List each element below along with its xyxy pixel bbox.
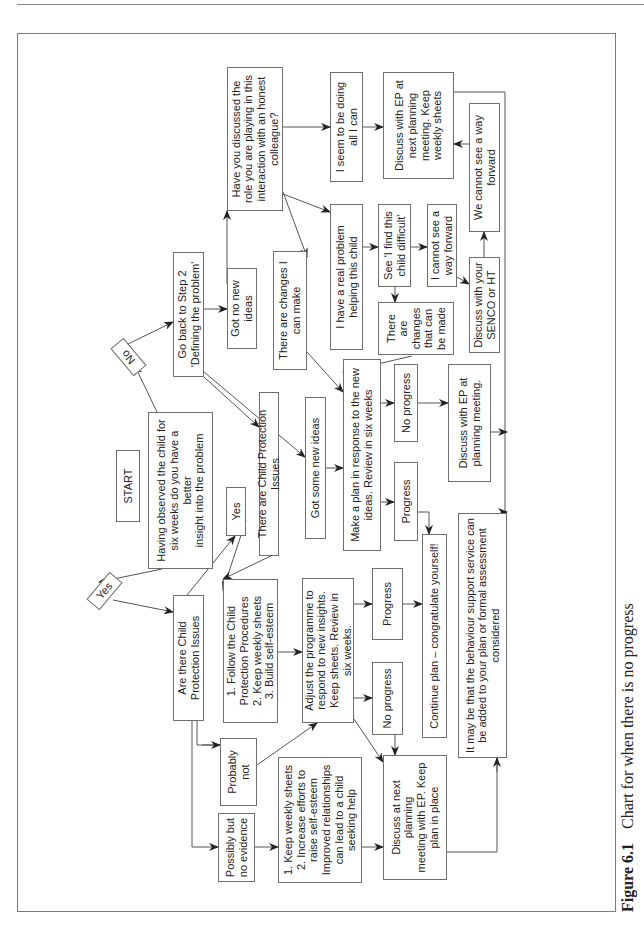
flowchart: START Having observed the child for six … [17,33,616,912]
make-a-plan: Make a plan in response to the new ideas… [343,359,381,551]
cannot-see-way-forward: I cannot see a way forward [427,204,457,287]
question-cp-issues: Are there Child Protection Issues [173,595,204,721]
follow-cp-procedures: 1. Follow the Child Protection Procedure… [223,579,278,723]
adjust-programme: Adjust the programme to respond to new i… [302,578,354,723]
possibly-no-evidence: Possibly but no evidence [218,813,255,882]
changes-that-can-be-made: There are changes that can be made [378,302,454,355]
continue-plan: Continue plan – congratulate yourself! [422,534,447,738]
question-better-insight: Having observed the child for six weeks … [148,412,213,569]
discuss-ep-planning-meeting: Discuss with EP at planning meeting. [448,364,491,482]
start-node: START [116,450,140,522]
go-back-step-2: Go back to Step 2 'Defining the problem' [173,252,204,377]
got-no-new-ideas: Got no new ideas [227,268,257,349]
keep-weekly-sheets-steps: 1. Keep weekly sheets 2. Increase effort… [278,757,362,883]
no-progress-plan: No progress [394,364,418,442]
seem-doing-all-i-can: I seem to be doing all I can [330,72,363,182]
real-problem-helping-child: I have a real problem helping this child [330,204,363,350]
figure-title: Chart for when there is no progress [619,603,636,829]
there-are-cp-issues: There are Child Protection Issues [259,392,279,556]
answer-yes-cp: Yes [226,487,246,536]
no-progress-adjust: No progress [372,662,403,735]
progress-plan: Progress [394,462,418,541]
figure-label: Figure 6.1 [619,843,636,912]
see-find-child-difficult: See 'I find this child difficult' [378,204,411,287]
discuss-senco-or-ht: Discuss with your SENCO or HT [469,257,500,353]
figure-caption: Figure 6.1Chart for when there is no pro… [619,603,637,912]
discuss-ep-keep-weekly-sheets: Discuss with EP at next planning meeting… [383,72,454,179]
progress-adjust: Progress [372,568,403,640]
question-discussed-role: Have you discussed the role you are play… [227,67,283,211]
behaviour-support-service: It may be that the behaviour support ser… [458,513,507,758]
probably-not: Probably not [220,738,257,806]
we-cannot-see-way-forward: We cannot see a way forward [469,103,500,232]
top-rule [17,4,644,5]
got-some-new-ideas: Got some new ideas [305,397,326,539]
changes-i-can-make: There are changes I can make [273,251,307,370]
discuss-ep-keep-plan: Discuss at next planning meeting with EP… [383,755,447,880]
